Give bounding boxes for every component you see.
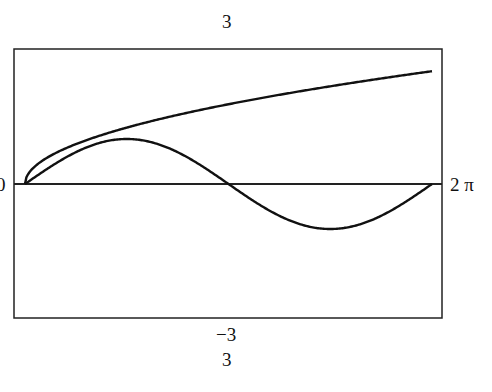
plot-area	[0, 0, 492, 392]
y-max-label: 3	[222, 12, 232, 31]
y-min-label: −3	[216, 325, 236, 344]
extra-label: 3	[222, 350, 232, 369]
sqrt-curve	[25, 71, 432, 184]
x-start-label: 0	[0, 175, 6, 194]
x-end-label: 2 π	[450, 175, 474, 194]
